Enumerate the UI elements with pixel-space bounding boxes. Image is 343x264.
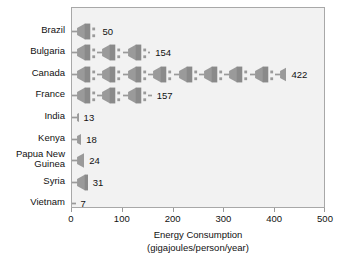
category-label: Kenya [38, 133, 65, 143]
x-axis-tick-label: 200 [165, 213, 181, 224]
plug-icon [72, 109, 79, 126]
pictograph-icons [72, 128, 81, 150]
pictograph-row: 157 [72, 85, 173, 107]
plug-icon [123, 87, 148, 104]
value-label: 7 [81, 198, 86, 208]
pictograph-icons [72, 42, 150, 64]
category-label: France [35, 89, 65, 99]
value-label: 422 [291, 69, 307, 80]
value-label: 31 [93, 177, 104, 188]
value-label: 50 [102, 26, 113, 37]
plug-icon [199, 66, 224, 83]
y-axis-category-labels: BrazilBulgariaCanadaFranceIndiaKenyaPapu… [0, 7, 68, 208]
pictograph-row: 50 [72, 20, 113, 42]
x-axis-tick [274, 208, 275, 212]
pictograph-icons [72, 171, 88, 193]
x-axis-tick-label: 0 [68, 213, 73, 224]
category-label: Syria [43, 176, 65, 186]
pictograph-row: 154 [72, 42, 171, 64]
x-axis-title: Energy Consumption (gigajoules/person/ye… [71, 228, 325, 254]
x-axis-tick-label: 400 [266, 213, 282, 224]
value-label: 18 [86, 134, 97, 145]
value-label: 154 [155, 47, 171, 58]
pictograph-icons [72, 20, 97, 42]
plot-area: 50154422157131824317 [71, 7, 325, 208]
pictograph-icons [72, 193, 76, 208]
plug-icon [224, 66, 249, 83]
x-axis-tick-label: 100 [114, 213, 130, 224]
plug-icon [275, 66, 286, 83]
value-label: 24 [89, 155, 100, 166]
pictograph-chart: BrazilBulgariaCanadaFranceIndiaKenyaPapu… [0, 0, 343, 264]
x-axis-tick-label: 300 [215, 213, 231, 224]
category-label: Brazil [41, 25, 65, 35]
plug-icon [72, 66, 97, 83]
category-label: Canada [32, 68, 65, 78]
x-axis-tick [71, 208, 72, 212]
plug-icon [123, 44, 148, 61]
plug-icon [174, 66, 199, 83]
pictograph-row: 24 [72, 150, 100, 172]
plug-icon [72, 152, 84, 169]
plug-icon [72, 174, 88, 191]
x-axis-title-line1: Energy Consumption [71, 228, 325, 241]
plug-icon [97, 87, 122, 104]
x-axis-tick-labels: 0100200300400500 [71, 213, 325, 226]
plug-icon [97, 44, 122, 61]
x-axis-tick [122, 208, 123, 212]
plug-icon [250, 66, 275, 83]
category-label: India [44, 111, 65, 121]
category-label: Vietnam [30, 197, 65, 207]
plug-icon [72, 131, 81, 148]
pictograph-row: 7 [72, 193, 86, 208]
pictograph-icons [72, 85, 152, 107]
plug-icon [97, 66, 122, 83]
pictograph-row: 13 [72, 106, 94, 128]
x-axis-title-line2: (gigajoules/person/year) [71, 241, 325, 254]
value-label: 157 [157, 90, 173, 101]
pictograph-row: 18 [72, 128, 97, 150]
plug-icon [148, 87, 152, 104]
pictograph-icons [72, 150, 84, 172]
category-label: Bulgaria [30, 46, 65, 56]
pictograph-icons [72, 63, 286, 85]
plug-icon [123, 66, 148, 83]
plug-icon [148, 66, 173, 83]
x-axis-tick-label: 500 [317, 213, 333, 224]
pictograph-row: 422 [72, 63, 307, 85]
plug-icon [72, 195, 76, 208]
value-label: 13 [84, 112, 95, 123]
x-axis-tick [223, 208, 224, 212]
pictograph-icons [72, 106, 79, 128]
pictograph-row: 31 [72, 171, 103, 193]
category-label: Papua New Guinea [16, 149, 65, 169]
plug-icon [72, 23, 97, 40]
x-axis-tick [324, 208, 325, 212]
plug-icon [72, 44, 97, 61]
plug-icon [72, 87, 97, 104]
x-axis-tick [173, 208, 174, 212]
plug-icon [148, 44, 150, 61]
